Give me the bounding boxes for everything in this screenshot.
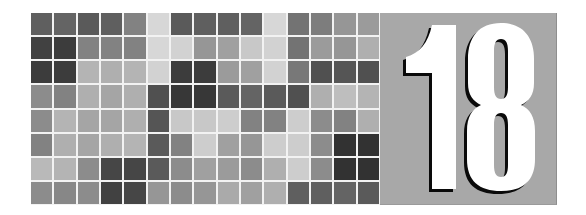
mosaic-tile	[148, 158, 169, 180]
mosaic-tile	[101, 182, 122, 204]
mosaic-tile	[358, 13, 379, 35]
mosaic-tile	[31, 110, 52, 132]
mosaic-tile	[288, 110, 309, 132]
mosaic-tile	[241, 85, 262, 107]
mosaic-tile	[171, 85, 192, 107]
mosaic-tile	[218, 61, 239, 83]
mosaic-tile	[101, 13, 122, 35]
mosaic-tile	[101, 85, 122, 107]
mosaic-tile	[288, 134, 309, 156]
mosaic-tile	[78, 61, 99, 83]
mosaic-tile	[288, 182, 309, 204]
mosaic-tile	[78, 182, 99, 204]
mosaic-tile	[358, 61, 379, 83]
mosaic-tile	[311, 85, 332, 107]
mosaic-tile	[358, 182, 379, 204]
mosaic-tile	[31, 13, 52, 35]
mosaic-tile	[78, 134, 99, 156]
mosaic-tile	[194, 13, 215, 35]
mosaic-tile	[218, 158, 239, 180]
mosaic-tile	[241, 61, 262, 83]
mosaic-tile	[124, 61, 145, 83]
mosaic-tile	[358, 110, 379, 132]
mosaic-tile	[171, 182, 192, 204]
mosaic-tile	[194, 61, 215, 83]
mosaic-tile	[218, 134, 239, 156]
mosaic-tile	[334, 37, 355, 59]
mosaic-tile	[101, 110, 122, 132]
mosaic-tile	[78, 13, 99, 35]
mosaic-tile	[264, 13, 285, 35]
mosaic-tile	[358, 158, 379, 180]
mosaic-tile	[124, 110, 145, 132]
chapter-number-graphic	[380, 13, 557, 205]
mosaic-tile	[124, 85, 145, 107]
mosaic-tile	[54, 182, 75, 204]
mosaic-tile	[288, 158, 309, 180]
mosaic-tile	[54, 134, 75, 156]
mosaic-tile	[358, 134, 379, 156]
mosaic-tile	[264, 110, 285, 132]
mosaic-tile	[171, 134, 192, 156]
mosaic-tile	[241, 37, 262, 59]
mosaic-tile	[194, 134, 215, 156]
mosaic-tile	[218, 13, 239, 35]
mosaic-tile	[194, 182, 215, 204]
mosaic-tile	[358, 85, 379, 107]
mosaic-tile	[148, 134, 169, 156]
mosaic-tile	[311, 110, 332, 132]
mosaic-tile	[148, 85, 169, 107]
mosaic-tile	[264, 182, 285, 204]
mosaic-tile	[241, 110, 262, 132]
mosaic-tile	[54, 158, 75, 180]
mosaic-tile	[124, 134, 145, 156]
mosaic-tile	[218, 37, 239, 59]
mosaic-tile	[264, 61, 285, 83]
mosaic-tile	[334, 110, 355, 132]
mosaic-tile	[334, 85, 355, 107]
mosaic-tile	[288, 13, 309, 35]
mosaic-tile	[194, 37, 215, 59]
mosaic-tile	[78, 37, 99, 59]
mosaic-tile	[218, 85, 239, 107]
mosaic-tile	[171, 110, 192, 132]
mosaic-tile	[31, 61, 52, 83]
mosaic-tile	[311, 182, 332, 204]
mosaic-tile	[311, 61, 332, 83]
mosaic-tile	[241, 13, 262, 35]
mosaic-tile	[101, 61, 122, 83]
mosaic-tile	[171, 61, 192, 83]
mosaic-tile	[264, 158, 285, 180]
mosaic-tile	[78, 110, 99, 132]
mosaic-tile	[101, 37, 122, 59]
mosaic-tile	[124, 13, 145, 35]
mosaic-tile	[31, 182, 52, 204]
mosaic-tile	[334, 158, 355, 180]
mosaic-tile	[264, 37, 285, 59]
mosaic-tile	[101, 134, 122, 156]
mosaic-tile	[311, 158, 332, 180]
mosaic-tile	[124, 37, 145, 59]
gray-tile-mosaic	[31, 13, 380, 205]
mosaic-tile	[311, 13, 332, 35]
mosaic-tile	[171, 158, 192, 180]
mosaic-tile	[241, 158, 262, 180]
mosaic-tile	[311, 134, 332, 156]
mosaic-tile	[311, 37, 332, 59]
mosaic-tile	[148, 13, 169, 35]
mosaic-tile	[264, 134, 285, 156]
mosaic-tile	[31, 37, 52, 59]
mosaic-tile	[218, 182, 239, 204]
mosaic-tile	[54, 13, 75, 35]
mosaic-tile	[334, 13, 355, 35]
mosaic-tile	[54, 61, 75, 83]
mosaic-tile	[334, 61, 355, 83]
mosaic-tile	[78, 85, 99, 107]
mosaic-tile	[194, 110, 215, 132]
mosaic-tile	[54, 37, 75, 59]
mosaic-tile	[148, 110, 169, 132]
mosaic-tile	[31, 134, 52, 156]
mosaic-tile	[148, 61, 169, 83]
mosaic-tile	[148, 182, 169, 204]
mosaic-tile	[334, 182, 355, 204]
